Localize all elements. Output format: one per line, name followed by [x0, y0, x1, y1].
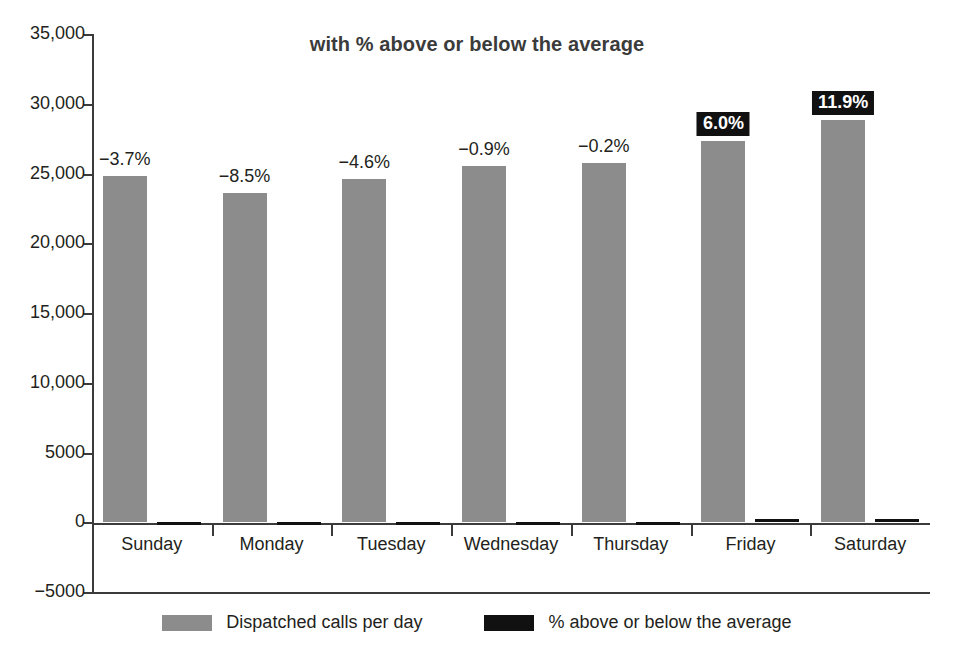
y-tick-label: 30,000 [30, 93, 85, 114]
bar-percent-vs-average [875, 519, 919, 522]
bar-dispatched-calls [342, 179, 386, 522]
bar-dispatched-calls [821, 120, 865, 523]
bar-dispatched-calls [701, 141, 745, 523]
y-tick-label: 25,000 [30, 163, 85, 184]
bar-percent-vs-average [157, 522, 201, 525]
y-tick-label: 35,000 [30, 23, 85, 44]
bar-dispatched-calls [462, 166, 506, 523]
legend-label: Dispatched calls per day [226, 612, 422, 633]
bar-value-label: −4.6% [319, 152, 409, 173]
x-axis-category-label: Sunday [92, 534, 212, 555]
legend-swatch-percent [484, 615, 534, 631]
x-axis-category-label: Wednesday [451, 534, 571, 555]
x-axis-category-label: Saturday [810, 534, 930, 555]
bar-percent-vs-average [277, 522, 321, 525]
plot-area: 35,00030,00025,00020,00015,00010,0005000… [92, 30, 932, 592]
y-tick-label: 15,000 [30, 302, 85, 323]
bar-dispatched-calls [103, 176, 147, 523]
bar-value-label: −8.5% [200, 166, 290, 187]
x-axis-category-label: Tuesday [331, 534, 451, 555]
plot-bottom-border [92, 592, 930, 594]
legend-label: % above or below the average [548, 612, 791, 633]
x-axis-category-label: Monday [212, 534, 332, 555]
y-tick-label: −5000 [34, 581, 85, 602]
y-tick-label: 20,000 [30, 232, 85, 253]
bar-dispatched-calls [223, 193, 267, 522]
bar-percent-vs-average [396, 522, 440, 525]
bar-value-label: −3.7% [80, 149, 170, 170]
y-tick-label: 5000 [45, 442, 85, 463]
y-axis-line [92, 34, 94, 592]
x-axis-line [92, 523, 930, 525]
bar-value-label: 11.9% [812, 91, 874, 115]
legend-item[interactable]: Dispatched calls per day [162, 612, 422, 633]
y-tick-label: 10,000 [30, 372, 85, 393]
bar-percent-vs-average [636, 522, 680, 525]
bar-percent-vs-average [755, 519, 799, 522]
bar-dispatched-calls [582, 163, 626, 522]
chart-legend: Dispatched calls per day% above or below… [0, 612, 954, 633]
bar-chart: with % above or below the average 35,000… [0, 0, 954, 657]
bar-value-label: 6.0% [697, 112, 750, 136]
x-axis-category-label: Friday [691, 534, 811, 555]
bar-value-label: −0.2% [559, 136, 649, 157]
x-axis-category-label: Thursday [571, 534, 691, 555]
legend-item[interactable]: % above or below the average [484, 612, 791, 633]
y-tick-label: 0 [75, 511, 85, 532]
bar-percent-vs-average [516, 522, 560, 525]
bar-value-label: −0.9% [439, 139, 529, 160]
legend-swatch-dispatched-calls [162, 615, 212, 631]
